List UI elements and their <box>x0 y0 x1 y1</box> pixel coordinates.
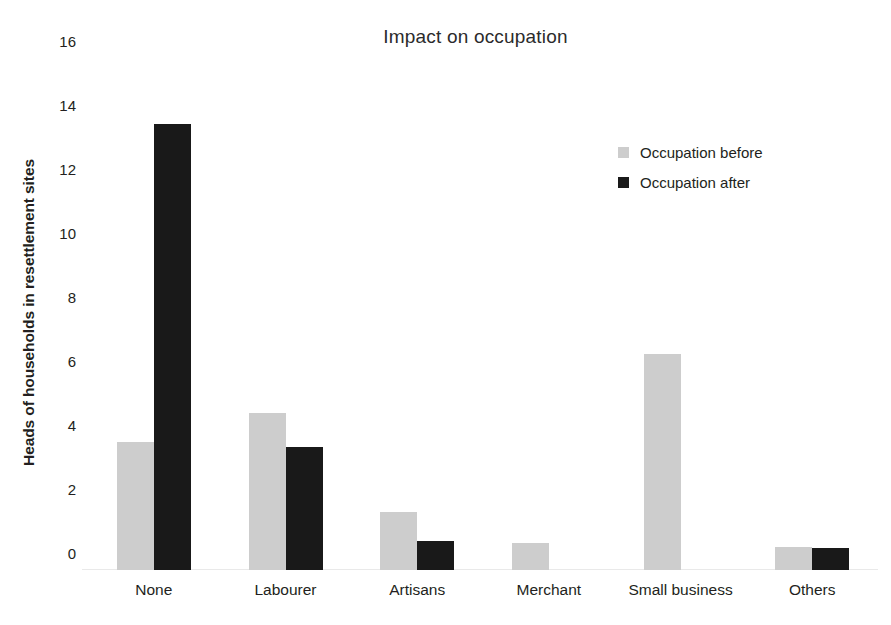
legend-swatch-icon-after <box>618 177 629 188</box>
bar-group-merchant: Merchant <box>483 58 615 570</box>
y-axis-tick-10: 10 <box>59 225 76 242</box>
y-axis-tick-0: 0 <box>68 545 76 562</box>
y-axis-tick-6: 6 <box>68 353 76 370</box>
bar-groups: NoneLabourerArtisansMerchantSmall busine… <box>88 58 878 570</box>
bar-group-labourer: Labourer <box>220 58 352 570</box>
bar-none-before[interactable] <box>117 442 154 570</box>
y-axis-tick-12: 12 <box>59 161 76 178</box>
x-axis-tick-labourer: Labourer <box>254 581 316 599</box>
y-axis-tick-16: 16 <box>59 33 76 50</box>
chart-figure: Impact on occupation Heads of households… <box>0 0 891 625</box>
y-axis-tick-8: 8 <box>68 289 76 306</box>
bar-small-business-before[interactable] <box>644 354 681 570</box>
bar-others-after[interactable] <box>812 548 849 570</box>
y-axis-tick-14: 14 <box>59 97 76 114</box>
legend-swatch-icon-before <box>618 147 629 158</box>
x-axis-tick-merchant: Merchant <box>517 581 582 599</box>
bar-merchant-before[interactable] <box>512 543 549 570</box>
legend-label: Occupation after <box>640 174 750 191</box>
bar-group-artisans: Artisans <box>351 58 483 570</box>
bar-others-before[interactable] <box>775 547 812 570</box>
legend-item-after[interactable]: Occupation after <box>618 167 763 197</box>
bar-labourer-after[interactable] <box>286 447 323 570</box>
bar-artisans-after[interactable] <box>417 541 454 570</box>
chart-legend: Occupation beforeOccupation after <box>618 137 763 197</box>
chart-title: Impact on occupation <box>0 26 891 48</box>
bar-artisans-before[interactable] <box>380 512 417 570</box>
y-axis-title: Heads of households in resettlement site… <box>12 0 46 625</box>
bar-group-others: Others <box>746 58 878 570</box>
bar-none-after[interactable] <box>154 124 191 570</box>
x-axis-tick-none: None <box>135 581 172 599</box>
legend-label: Occupation before <box>640 144 763 161</box>
x-axis-tick-others: Others <box>789 581 836 599</box>
bar-group-small-business: Small business <box>615 58 747 570</box>
y-axis-tick-2: 2 <box>68 481 76 498</box>
legend-item-before[interactable]: Occupation before <box>618 137 763 167</box>
x-axis-tick-artisans: Artisans <box>389 581 445 599</box>
x-axis-tick-small-business: Small business <box>628 581 732 599</box>
y-axis-tick-4: 4 <box>68 417 76 434</box>
bar-labourer-before[interactable] <box>249 413 286 570</box>
plot-area: 1614121086420 NoneLabourerArtisansMercha… <box>88 58 878 570</box>
bar-group-none: None <box>88 58 220 570</box>
